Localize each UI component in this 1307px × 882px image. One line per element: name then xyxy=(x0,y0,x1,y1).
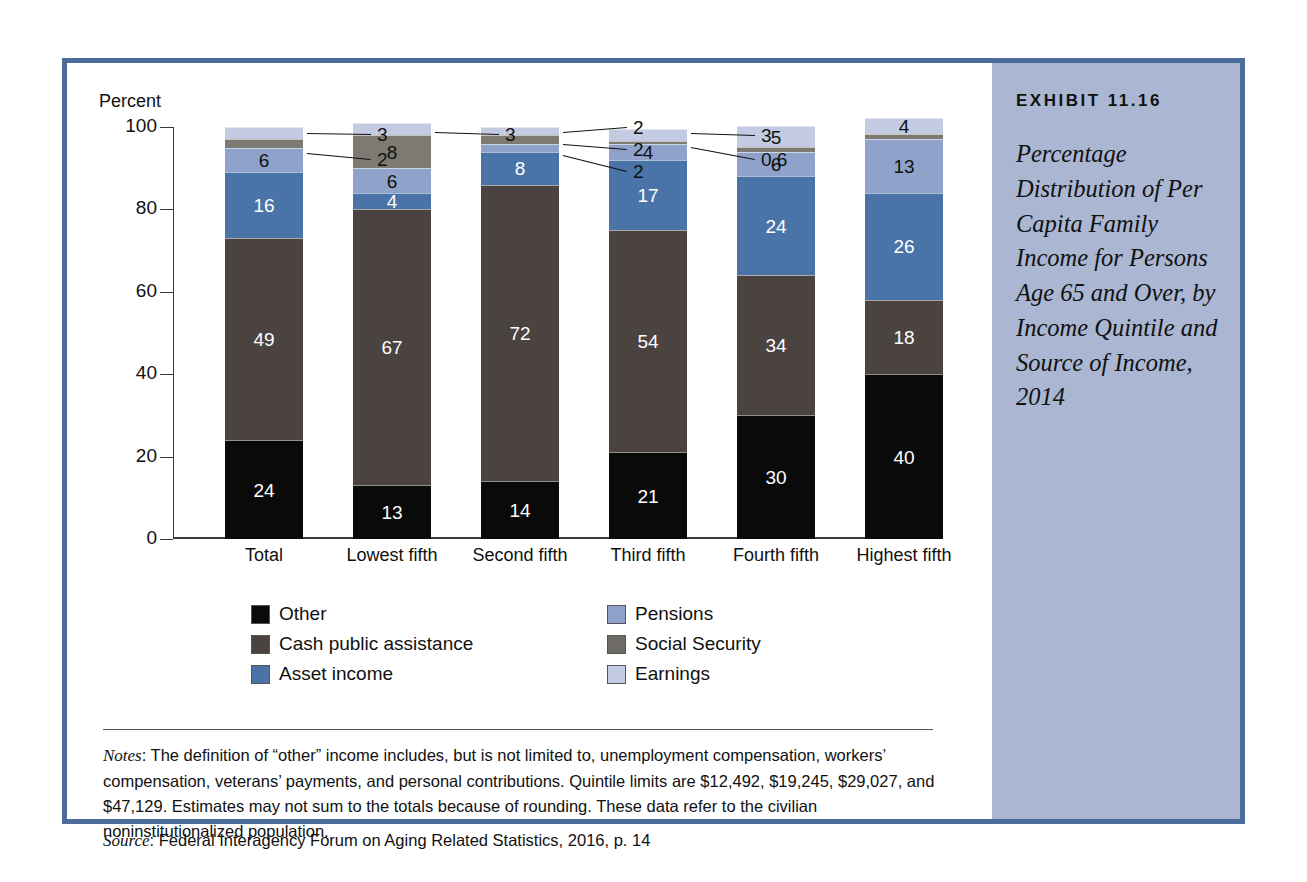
legend-swatch-icon xyxy=(251,605,270,624)
notes-block: Notes: The definition of “other” income … xyxy=(103,743,949,844)
bar-segment[interactable]: 16 xyxy=(225,172,303,238)
bar-segment[interactable]: 8 xyxy=(353,135,431,168)
stacked-bar[interactable]: 56243430 xyxy=(737,126,815,539)
y-tick-label: 40 xyxy=(95,362,157,384)
chart-area: Percent 020406080100 6164924864671387214… xyxy=(67,63,992,819)
y-tick-label: 20 xyxy=(95,445,157,467)
y-axis-title: Percent xyxy=(99,91,161,112)
bar-segment[interactable]: 4 xyxy=(865,118,943,134)
exhibit-page: Percent 020406080100 6164924864671387214… xyxy=(0,0,1307,882)
y-tick xyxy=(160,374,173,375)
bar-segment[interactable]: 6 xyxy=(225,148,303,173)
legend-label: Asset income xyxy=(279,663,393,685)
bar-segment-label: 26 xyxy=(893,237,914,256)
y-tick-label: 0 xyxy=(95,527,157,549)
x-tick-label: Highest fifth xyxy=(829,545,979,566)
bar-segment-label: 4 xyxy=(643,143,654,162)
bar-segment-label: 21 xyxy=(637,487,658,506)
legend-swatch-icon xyxy=(607,605,626,624)
bar-group: 6164924864671387214417542156243430413261… xyxy=(173,127,933,539)
legend-column-left: OtherCash public assistanceAsset income xyxy=(251,599,473,689)
legend-label: Earnings xyxy=(635,663,710,685)
bar-segment[interactable]: 67 xyxy=(353,209,431,485)
bar-segment[interactable] xyxy=(225,127,303,139)
bar-segment-label: 6 xyxy=(771,155,782,174)
bar-segment[interactable]: 21 xyxy=(609,452,687,539)
legend-swatch-icon xyxy=(607,665,626,684)
bar-segment-label: 13 xyxy=(381,503,402,522)
bar-segment[interactable]: 30 xyxy=(737,415,815,539)
bar-segment-label: 34 xyxy=(765,336,786,355)
bar-segment-label: 14 xyxy=(509,501,530,520)
bar-segment[interactable]: 72 xyxy=(481,185,559,482)
bar-segment[interactable]: 24 xyxy=(225,440,303,539)
legend-item[interactable]: Pensions xyxy=(607,599,761,629)
bar-segment-label: 5 xyxy=(771,128,782,147)
bar-segment[interactable]: 13 xyxy=(353,485,431,539)
bar-segment[interactable] xyxy=(225,139,303,147)
bar-segment[interactable] xyxy=(481,135,559,143)
exhibit-card: Percent 020406080100 6164924864671387214… xyxy=(62,58,1245,824)
y-tick xyxy=(160,457,173,458)
bar-segment-label: 18 xyxy=(893,328,914,347)
bar-segment[interactable]: 6 xyxy=(353,168,431,193)
bar-segment[interactable]: 14 xyxy=(481,481,559,539)
bar-segment[interactable]: 49 xyxy=(225,238,303,440)
bar-segment-label: 67 xyxy=(381,338,402,357)
source-block: Source: Federal Interagency Forum on Agi… xyxy=(103,831,949,851)
y-tick-label: 60 xyxy=(95,280,157,302)
bar-segment[interactable]: 13 xyxy=(865,139,943,193)
bar-segment[interactable]: 8 xyxy=(481,152,559,185)
bar-segment[interactable]: 5 xyxy=(737,126,815,147)
bar-segment[interactable]: 54 xyxy=(609,230,687,452)
bar-segment[interactable]: 26 xyxy=(865,193,943,300)
bar-segment[interactable]: 34 xyxy=(737,275,815,415)
stacked-bar[interactable]: 87214 xyxy=(481,127,559,539)
bar-segment[interactable]: 6 xyxy=(737,152,815,177)
legend-item[interactable]: Cash public assistance xyxy=(251,629,473,659)
legend-swatch-icon xyxy=(607,635,626,654)
bar-segment-label: 8 xyxy=(387,143,398,162)
notes-text: : The definition of “other” income inclu… xyxy=(103,746,934,840)
bar-segment-label: 4 xyxy=(899,117,910,136)
notes-divider xyxy=(103,729,933,730)
source-label: Source xyxy=(103,831,150,850)
bar-segment[interactable]: 40 xyxy=(865,374,943,539)
legend-swatch-icon xyxy=(251,635,270,654)
legend-label: Social Security xyxy=(635,633,761,655)
bar-segment-label: 16 xyxy=(253,196,274,215)
plot-region: 020406080100 616492486467138721441754215… xyxy=(173,127,933,539)
bar-segment-label: 8 xyxy=(515,159,526,178)
bar-segment-label: 6 xyxy=(259,151,270,170)
legend-label: Other xyxy=(279,603,327,625)
y-tick-label: 100 xyxy=(95,115,157,137)
bar-segment-label: 30 xyxy=(765,468,786,487)
bar-callout-label: 3 xyxy=(505,124,516,146)
stacked-bar[interactable]: 6164924 xyxy=(225,127,303,539)
bar-callout-label: 2 xyxy=(633,161,644,183)
bar-segment-label: 4 xyxy=(387,192,398,211)
bar-segment[interactable]: 4 xyxy=(353,193,431,209)
stacked-bar[interactable]: 413261840 xyxy=(865,118,943,539)
stacked-bar[interactable]: 4175421 xyxy=(609,129,687,539)
legend-item[interactable]: Asset income xyxy=(251,659,473,689)
bar-segment[interactable] xyxy=(481,144,559,152)
legend-item[interactable]: Other xyxy=(251,599,473,629)
notes-label: Notes xyxy=(103,746,142,765)
legend-item[interactable]: Social Security xyxy=(607,629,761,659)
y-tick xyxy=(160,539,173,540)
bar-segment[interactable]: 18 xyxy=(865,300,943,374)
bar-segment[interactable]: 4 xyxy=(609,144,687,160)
exhibit-title: Percentage Distribution of Per Capita Fa… xyxy=(1016,137,1218,415)
bar-segment[interactable]: 24 xyxy=(737,176,815,275)
legend-item[interactable]: Earnings xyxy=(607,659,761,689)
bar-segment-label: 54 xyxy=(637,332,658,351)
stacked-bar[interactable]: 8646713 xyxy=(353,123,431,539)
y-tick-label: 80 xyxy=(95,197,157,219)
bar-segment[interactable] xyxy=(609,129,687,141)
bar-segment-label: 24 xyxy=(253,481,274,500)
bar-segment-label: 6 xyxy=(387,172,398,191)
y-tick xyxy=(160,127,173,128)
bar-segment-label: 40 xyxy=(893,448,914,467)
source-text: : Federal Interagency Forum on Aging Rel… xyxy=(150,831,651,849)
